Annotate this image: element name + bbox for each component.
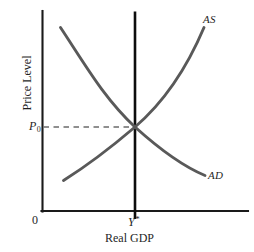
equilibrium-output-superscript: *	[135, 214, 140, 224]
x-axis-title: Real GDP	[105, 232, 154, 244]
as-curve-label: AS	[203, 14, 216, 25]
equilibrium-output-letter: Y	[128, 215, 135, 229]
equilibrium-price-subscript: 0	[36, 125, 41, 134]
origin-label: 0	[32, 214, 38, 226]
equilibrium-output-label: Y*	[128, 215, 140, 228]
equilibrium-price-label: P0	[29, 120, 41, 134]
ad-as-diagram: AS AD P0 Y* 0 Real GDP Price Level	[0, 0, 254, 252]
ad-curve	[61, 28, 206, 176]
y-axis-title: Price Level	[21, 48, 33, 118]
ad-curve-label: AD	[208, 170, 223, 181]
